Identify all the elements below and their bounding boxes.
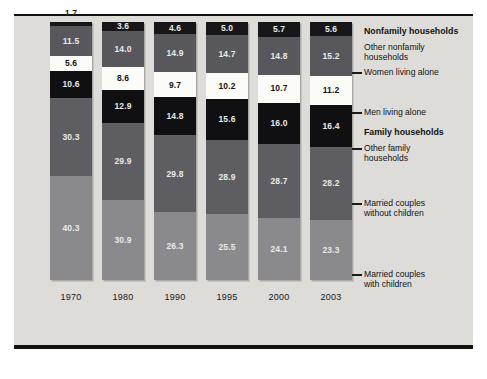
bar-segment-value: 28.7 [271, 177, 288, 186]
bar-segment: 9.7 [154, 72, 196, 97]
leader-line-married-without [352, 203, 362, 205]
legend-item-other-nonfamily: Other nonfamily households [364, 42, 484, 63]
legend-item-other-family-line1: Other family [364, 143, 410, 153]
bar-segment-value: 16.4 [323, 122, 340, 131]
bar-segment: 5.6 [50, 56, 92, 70]
legend-item-other-family: Other family households [364, 143, 484, 164]
bar-segment-value: 14.7 [219, 50, 236, 59]
bar-segment-value: 14.0 [115, 45, 132, 54]
x-axis-label-1970: 1970 [50, 292, 92, 302]
bar-segment: 4.6 [154, 22, 196, 34]
bar-segment: 14.8 [258, 37, 300, 75]
legend-item-women-living-alone-line1: Women living alone [364, 67, 439, 77]
bar-1995: 5.014.710.215.628.925.5 [206, 22, 248, 280]
bar-segment: 30.9 [102, 200, 144, 280]
bar-segment-value: 8.6 [117, 74, 129, 83]
bar-segment-value: 5.6 [65, 59, 77, 68]
leader-line-married-with [352, 274, 362, 276]
bar-segment: 25.5 [206, 214, 248, 280]
bar-segment: 5.7 [258, 22, 300, 37]
bar-segment-value: 10.2 [219, 82, 236, 91]
bar-segment: 23.3 [310, 220, 352, 280]
bar-2003: 5.615.211.216.428.223.3 [310, 22, 352, 280]
bar-segment: 16.0 [258, 103, 300, 144]
bar-segment-value: 40.3 [63, 224, 80, 233]
legend-item-married-with-children-line2: with children [364, 279, 412, 289]
x-axis-label-1995: 1995 [206, 292, 248, 302]
bar-segment-value: 9.7 [169, 81, 181, 90]
legend-item-other-nonfamily-line1: Other nonfamily [364, 42, 425, 52]
bar-segment: 16.4 [310, 105, 352, 147]
plot-area: 1.711.55.610.630.340.319703.614.08.612.9… [46, 22, 336, 314]
bar-segment: 14.0 [102, 31, 144, 67]
bar-segment-value: 5.7 [273, 25, 285, 34]
chart-legend: Nonfamily households Other nonfamily hou… [352, 22, 476, 314]
bar-segment-value: 30.3 [63, 133, 80, 142]
bar-2000: 5.714.810.716.028.724.1 [258, 22, 300, 280]
bar-segment-value: 11.5 [63, 37, 79, 46]
bar-1990: 4.614.99.714.829.826.3 [154, 22, 196, 280]
bar-segment: 10.2 [206, 73, 248, 99]
figure: 1.711.55.610.630.340.319703.614.08.612.9… [0, 0, 487, 379]
bar-segment: 26.3 [154, 212, 196, 280]
legend-group-nonfamily: Nonfamily households [364, 26, 458, 36]
bar-segment-value: 26.3 [167, 242, 184, 251]
bar-segment: 3.6 [102, 22, 144, 31]
bar-1980: 3.614.08.612.929.930.9 [102, 22, 144, 280]
bar-segment-value: 28.2 [323, 179, 340, 188]
bar-segment-value: 12.9 [115, 102, 132, 111]
bar-segment: 29.9 [102, 123, 144, 200]
bar-segment: 14.8 [154, 97, 196, 135]
bar-segment-value: 30.9 [115, 236, 132, 245]
x-axis-label-2000: 2000 [258, 292, 300, 302]
bar-segment: 10.7 [258, 75, 300, 103]
bar-segment-value: 10.7 [271, 84, 288, 93]
bar-segment-value: 15.2 [323, 52, 340, 61]
bar-segment: 30.3 [50, 98, 92, 176]
x-axis-label-2003: 2003 [310, 292, 352, 302]
bar-segment-value: 4.6 [169, 24, 181, 33]
bar-segment-value: 23.3 [323, 246, 340, 255]
bar-segment-value: 11.2 [323, 86, 339, 95]
x-axis-label-1980: 1980 [102, 292, 144, 302]
bar-segment: 11.2 [310, 76, 352, 105]
bar-segment: 10.6 [50, 71, 92, 98]
bar-segment: 5.0 [206, 22, 248, 35]
legend-item-married-with-children: Married couples with children [364, 269, 484, 290]
legend-item-women-living-alone: Women living alone [364, 67, 484, 77]
bar-segment-value: 14.9 [167, 49, 184, 58]
x-axis-label-1990: 1990 [154, 292, 196, 302]
legend-item-married-without-children-line2: without children [364, 208, 424, 218]
legend-item-other-nonfamily-line2: households [364, 52, 408, 62]
leader-line-women [352, 72, 362, 74]
bar-segment: 15.2 [310, 36, 352, 75]
legend-item-married-without-children-line1: Married couples [364, 198, 425, 208]
leader-line-other-family [352, 148, 362, 150]
bar-segment-value: 1.7 [50, 9, 92, 18]
bar-segment-value: 10.6 [63, 80, 80, 89]
bar-segment-value: 25.5 [219, 243, 236, 252]
leader-line-men [352, 112, 362, 114]
figure-bottom-rule [14, 345, 473, 349]
bar-segment: 14.7 [206, 35, 248, 73]
bar-segment: 28.7 [258, 144, 300, 218]
bar-1970: 1.711.55.610.630.340.3 [50, 22, 92, 280]
bar-segment-value: 14.8 [271, 52, 288, 61]
bar-segment-value: 29.8 [167, 170, 184, 179]
bar-segment: 24.1 [258, 218, 300, 280]
bar-segment: 14.9 [154, 34, 196, 72]
bar-segment-value: 5.6 [325, 25, 337, 34]
legend-item-men-living-alone-line1: Men living alone [364, 107, 426, 117]
bar-segment: 12.9 [102, 90, 144, 123]
legend-item-other-family-line2: households [364, 153, 408, 163]
bar-segment: 29.8 [154, 135, 196, 212]
bar-segment-value: 14.8 [167, 112, 184, 121]
legend-item-married-with-children-line1: Married couples [364, 269, 425, 279]
legend-item-married-without-children: Married couples without children [364, 198, 484, 219]
bar-segment: 8.6 [102, 67, 144, 89]
bar-segment-value: 29.9 [115, 157, 132, 166]
legend-item-men-living-alone: Men living alone [364, 107, 484, 117]
bar-segment-value: 28.9 [219, 173, 236, 182]
bar-segment-value: 24.1 [271, 245, 288, 254]
bar-segment-value: 5.0 [221, 24, 233, 33]
